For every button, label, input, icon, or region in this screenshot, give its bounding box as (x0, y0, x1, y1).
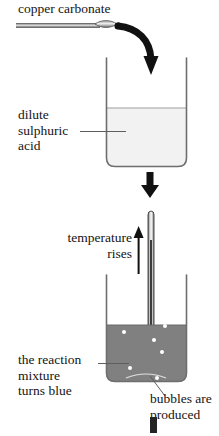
label-dilute-line1: dilute (18, 107, 68, 123)
label-dilute-line2: sulphuric (18, 123, 68, 139)
leader-line-reaction-mixture (98, 363, 129, 364)
beaker-with-reaction-mixture (104, 274, 189, 384)
bottom-marker-bar (150, 417, 157, 433)
label-reaction-line3: turns blue (18, 383, 81, 399)
leader-line-acid (80, 131, 126, 132)
label-copper-carbonate: copper carbonate (18, 1, 111, 17)
label-reaction-line2: mixture (18, 368, 81, 384)
down-arrow-icon (138, 172, 162, 200)
label-bubbles-line2: produced (150, 407, 212, 423)
label-temperature-line2: rises (57, 246, 132, 262)
label-dilute-line3: acid (18, 138, 68, 154)
chemistry-reaction-diagram: copper carbonate dilute sulph (0, 0, 219, 436)
beaker-with-acid (104, 57, 189, 169)
label-temperature-line1: temperature (57, 230, 132, 246)
label-dilute-sulphuric-acid: dilute sulphuric acid (18, 107, 68, 154)
label-bubbles-produced: bubbles are produced (150, 391, 212, 422)
label-bubbles-line1: bubbles are (150, 391, 212, 407)
label-temperature-rises: temperature rises (57, 230, 132, 261)
spatula-handle-icon (16, 23, 100, 28)
label-reaction-line1: the reaction (18, 352, 81, 368)
reaction-liquid (107, 325, 187, 382)
label-reaction-mixture: the reaction mixture turns blue (18, 352, 81, 399)
acid-liquid (107, 108, 187, 167)
